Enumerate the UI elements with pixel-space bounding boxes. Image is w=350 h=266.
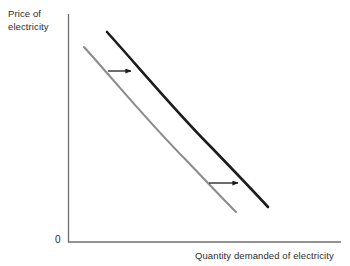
original-demand-curve <box>84 47 236 212</box>
new-demand-curve <box>107 32 268 207</box>
plot-area <box>0 0 350 266</box>
demand-shift-figure: Price of electricity 0 Quantity demanded… <box>0 0 350 266</box>
